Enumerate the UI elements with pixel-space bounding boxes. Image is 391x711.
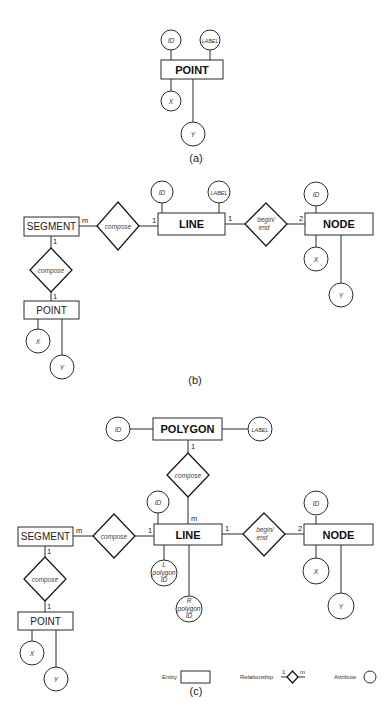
cardinality: 1 xyxy=(282,669,286,675)
attribute-l-polygon-id-label: ID xyxy=(161,576,168,583)
entity-node-label: NODE xyxy=(323,529,355,541)
cardinality: 2 xyxy=(298,524,302,533)
attribute-node-y-label: Y xyxy=(339,603,344,610)
relationship-segment-point-label: compose xyxy=(38,267,65,275)
legend-attribute-label: Attribute xyxy=(334,674,357,680)
attribute-r-polygon-id-label: R xyxy=(187,597,192,604)
diagram-a: ID LABEL POINT X Y (a) xyxy=(161,30,223,164)
attribute-y-label: Y xyxy=(191,131,196,138)
entity-line-label: LINE xyxy=(175,529,200,541)
caption-a: (a) xyxy=(189,152,202,164)
legend: Entity Relationship 1 m Attribute xyxy=(162,669,376,683)
cardinality: 2 xyxy=(299,214,303,223)
relationship-polygon-line-label: compose xyxy=(175,472,202,480)
relationship-segment-line-label: compose xyxy=(105,223,132,231)
attribute-line-id-label: ID xyxy=(159,189,166,196)
cardinality: 1 xyxy=(53,237,57,246)
entity-segment-label: SEGMENT xyxy=(21,531,70,542)
cardinality: m xyxy=(76,526,82,535)
relationship-line-node-label: begin/ xyxy=(257,216,276,224)
legend-entity-symbol xyxy=(181,671,210,683)
cardinality: 1 xyxy=(47,547,51,556)
cardinality: 1 xyxy=(191,442,195,451)
diagram-b: SEGMENT compose m 1 LINE ID LABEL begin/… xyxy=(24,181,373,386)
entity-node-label: NODE xyxy=(323,218,355,230)
relationship-segment-line-label: compose xyxy=(101,533,128,541)
entity-point-label: POINT xyxy=(30,616,61,627)
entity-point-label: POINT xyxy=(175,64,209,76)
cardinality: 1 xyxy=(225,524,229,533)
entity-polygon-label: POLYGON xyxy=(161,423,215,435)
relationship-line-node-label: end xyxy=(257,534,268,541)
attribute-point-y-label: Y xyxy=(60,364,65,371)
entity-point-label: POINT xyxy=(36,305,67,316)
attribute-l-polygon-id-label: L xyxy=(162,561,166,568)
attribute-node-id-label: ID xyxy=(313,191,320,198)
legend-relationship-symbol xyxy=(287,671,298,683)
cardinality: 1 xyxy=(47,602,51,611)
attribute-line-id-label: ID xyxy=(155,499,162,506)
attribute-r-polygon-id-label: ID xyxy=(186,612,193,619)
relationship-segment-point-label: compose xyxy=(32,576,59,584)
entity-line-label: LINE xyxy=(179,218,204,230)
cardinality: m xyxy=(82,216,88,225)
attribute-node-id-label: ID xyxy=(313,500,320,507)
diagram-c: POLYGON ID LABEL compose 1 m SEGMENT com… xyxy=(18,417,376,697)
cardinality: 1 xyxy=(148,526,152,535)
attribute-node-y-label: Y xyxy=(339,292,344,299)
cardinality: 1 xyxy=(53,292,57,301)
attribute-x-label: X xyxy=(168,98,174,105)
attribute-id-label: ID xyxy=(168,37,175,44)
relationship-line-node-label: begin/ xyxy=(256,526,275,534)
attribute-polygon-label-label: LABEL xyxy=(251,427,268,433)
attribute-label-label: LABEL xyxy=(201,38,218,44)
entity-segment-label: SEGMENT xyxy=(27,221,76,232)
er-diagram-canvas: ID LABEL POINT X Y (a) SEGMENT compose m… xyxy=(0,0,391,711)
cardinality: m xyxy=(300,669,305,675)
attribute-node-x-label: X xyxy=(313,256,319,263)
legend-entity-label: Entity xyxy=(162,674,177,680)
caption-c: (c) xyxy=(190,685,203,697)
cardinality: 1 xyxy=(152,216,156,225)
caption-b: (b) xyxy=(188,374,201,386)
cardinality: 1 xyxy=(228,214,232,223)
attribute-point-x-label: X xyxy=(35,338,41,345)
attribute-line-label-label: LABEL xyxy=(210,190,227,196)
attribute-polygon-id-label: ID xyxy=(115,426,122,433)
relationship-line-node-label: end xyxy=(259,224,270,231)
legend-relationship-label: Relationship xyxy=(240,674,274,680)
attribute-node-x-label: X xyxy=(313,568,319,575)
attribute-point-x-label: X xyxy=(29,650,35,657)
legend-attribute-symbol xyxy=(364,671,376,683)
attribute-point-y-label: Y xyxy=(54,676,59,683)
cardinality: m xyxy=(191,514,197,523)
